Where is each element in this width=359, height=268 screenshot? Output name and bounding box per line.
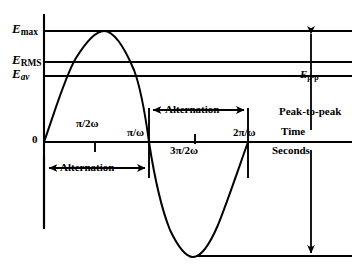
origin-label: 0 bbox=[32, 134, 38, 145]
alternation-lower-label: Alternation bbox=[60, 162, 114, 173]
tick-label-3pi-over-2w: 3π/2ω bbox=[170, 145, 198, 156]
time-axis-label: Time bbox=[281, 126, 305, 137]
sine-wave-figure: Emax ERMS Eav 0 π/2ω π/ω 3π/2ω 2π/ω Time… bbox=[0, 0, 359, 268]
tick-label-2pi-over-w: 2π/ω bbox=[233, 127, 256, 138]
emax-label: Emax bbox=[12, 22, 38, 37]
seconds-axis-label: Seconds bbox=[272, 145, 310, 156]
epp-label: Ep-p bbox=[300, 69, 319, 82]
tick-label-pi-over-2w: π/2ω bbox=[76, 118, 99, 129]
tick-label-pi-over-w: π/ω bbox=[127, 127, 144, 138]
sine-wave-curve bbox=[44, 31, 248, 257]
alternation-upper-label: Alternation bbox=[165, 104, 219, 115]
eav-label: Eav bbox=[12, 67, 30, 82]
peak-to-peak-label: Peak-to-peak bbox=[279, 106, 341, 117]
